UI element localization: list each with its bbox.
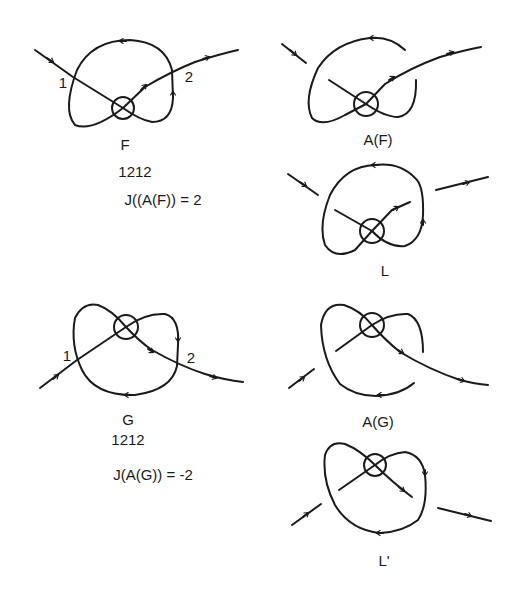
strand-loop <box>322 165 423 254</box>
arrow-inner <box>398 350 403 353</box>
strand-diagonal-out <box>372 202 410 231</box>
strand-right-loop <box>74 305 179 396</box>
strand-exit <box>366 47 481 104</box>
diagram-title-L-prime: L' <box>378 553 389 568</box>
crossing-label-1: 1 <box>59 75 67 90</box>
diagram-L-prime <box>292 443 491 533</box>
arrow-entry <box>290 50 296 55</box>
gauss-word-G: 1212 <box>111 432 144 447</box>
diagram-title-G: G <box>122 412 134 427</box>
diagram-A-of-F <box>282 38 481 123</box>
formula-G: J(A(G)) = -2 <box>113 467 193 482</box>
stub-exit <box>436 177 488 190</box>
strand-exit <box>123 50 238 108</box>
knot-diagrams-canvas <box>0 0 512 597</box>
strand-exit <box>126 327 243 382</box>
diagram-title-A-of-G: A(G) <box>362 414 394 429</box>
crossing-label-2: 2 <box>187 350 195 365</box>
arrow-exit <box>458 379 464 381</box>
diagram-title-L: L <box>381 263 389 278</box>
strand-diagonal <box>324 443 425 533</box>
strand-inner-out <box>375 465 412 497</box>
crossing-label-2: 2 <box>185 69 193 84</box>
strand-entry <box>35 50 173 122</box>
crossing-label-1: 1 <box>63 348 71 363</box>
gauss-word-F: 1212 <box>118 164 151 179</box>
strand-exit <box>372 325 488 385</box>
diagram-A-of-G <box>289 305 488 396</box>
formula-F: J((A(F)) = 2 <box>124 192 201 207</box>
diagram-title-F: F <box>120 137 129 152</box>
diagram-L <box>288 165 488 254</box>
arrow-inner <box>393 207 398 210</box>
diagram-title-A-of-F: A(F) <box>363 132 392 147</box>
